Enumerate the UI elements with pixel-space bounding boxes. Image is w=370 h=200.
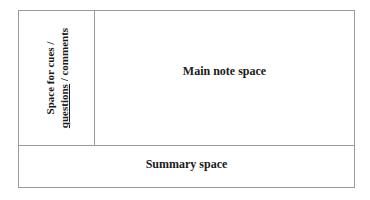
summary-area: Summary space <box>19 145 354 187</box>
cue-label-line-2: questions / comments <box>57 13 71 143</box>
cue-label-line-1: Space for cues / <box>43 13 57 143</box>
main-note-area: Main note space <box>95 11 354 145</box>
cue-column: Space for cues / questions / comments <box>19 11 95 145</box>
cornell-notes-frame: Space for cues / questions / comments Ma… <box>18 10 355 188</box>
cue-label-questions: questions <box>58 84 70 128</box>
cue-column-label: Space for cues / questions / comments <box>43 13 71 143</box>
cue-label-comments: / comments <box>58 28 70 84</box>
main-note-label: Main note space <box>183 64 266 79</box>
summary-label: Summary space <box>146 157 228 172</box>
